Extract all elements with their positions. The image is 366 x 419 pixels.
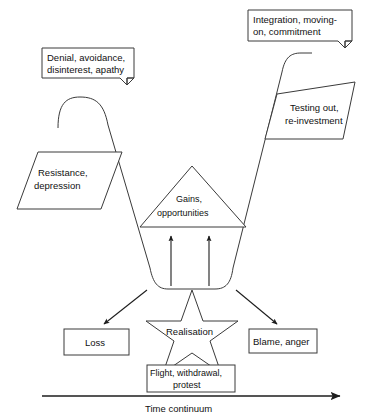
- transition-curve-diagram: Denial, avoidance, disinterest, apathy I…: [0, 0, 366, 419]
- gains-label-line2: opportunities: [157, 208, 209, 218]
- realisation-label: Realisation: [166, 326, 213, 337]
- blame-label: Blame, anger: [253, 336, 310, 347]
- resistance-label-line1: Resistance,: [38, 167, 88, 178]
- resistance-parallelogram: Resistance, depression: [17, 152, 122, 209]
- resistance-label-line2: depression: [34, 180, 80, 191]
- time-continuum-axis: Time continuum: [42, 396, 340, 414]
- diagonal-arrow-left: [104, 290, 147, 324]
- testing-parallelogram: Testing out, re-investment: [265, 82, 355, 139]
- testing-label-line1: Testing out,: [290, 102, 339, 113]
- diagonal-arrow-right: [236, 290, 277, 324]
- blame-box: Blame, anger: [249, 329, 317, 353]
- denial-callout-line1: Denial, avoidance,: [47, 52, 125, 63]
- flight-label-line2: protest: [173, 380, 201, 390]
- flight-label-line1: Flight, withdrawal,: [150, 368, 222, 378]
- gains-label-line1: Gains,: [176, 194, 202, 204]
- gains-triangle: Gains, opportunities: [140, 166, 246, 227]
- diagram-canvas: Denial, avoidance, disinterest, apathy I…: [0, 0, 366, 419]
- integration-callout: Integration, moving- on, commitment: [248, 10, 352, 48]
- denial-callout: Denial, avoidance, disinterest, apathy: [42, 48, 134, 85]
- loss-box: Loss: [64, 329, 129, 355]
- integration-callout-line2: on, commitment: [253, 26, 321, 37]
- denial-callout-line2: disinterest, apathy: [47, 64, 124, 75]
- testing-label-line2: re-investment: [285, 115, 343, 126]
- integration-callout-line1: Integration, moving-: [253, 14, 337, 25]
- upward-arrows: [171, 236, 209, 286]
- flight-box: Flight, withdrawal, protest: [147, 365, 235, 392]
- loss-label: Loss: [85, 337, 105, 348]
- realisation-star: Realisation: [146, 290, 238, 373]
- axis-label: Time continuum: [145, 403, 212, 414]
